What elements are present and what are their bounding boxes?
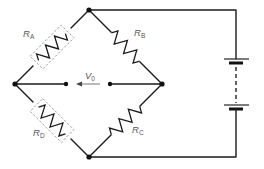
resistor-rb: RB [89, 10, 162, 84]
label-rd: RD [33, 127, 45, 139]
label-rc: RC [132, 124, 144, 136]
resistor-rc: RC [89, 84, 162, 157]
label-rb: RB [134, 27, 145, 39]
label-ra: RA [23, 28, 35, 40]
node-right [159, 81, 164, 86]
resistor-rd: RD [15, 84, 89, 157]
node-top [86, 7, 91, 12]
output-terminal-right [108, 82, 112, 86]
output-terminal-left [64, 82, 68, 86]
output-voltage: V0 [15, 70, 162, 87]
wheatstone-bridge-diagram: RA RB RC RD V0 [0, 0, 264, 169]
node-left [12, 81, 17, 86]
arrow-left-icon [76, 82, 82, 87]
resistor-ra: RA [15, 10, 89, 84]
label-v0: V0 [85, 70, 95, 82]
node-bottom [86, 154, 91, 159]
